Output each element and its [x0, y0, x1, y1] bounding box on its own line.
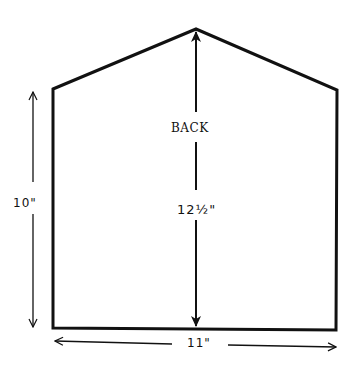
width-arrow-right — [228, 345, 336, 347]
back-panel-diagram — [0, 0, 355, 368]
panel-label: BACK — [171, 119, 209, 137]
width-arrow-left — [55, 341, 172, 344]
center-height-label: 12½" — [176, 199, 217, 220]
side-height-label: 10" — [13, 192, 37, 214]
width-label: 11" — [183, 336, 215, 350]
